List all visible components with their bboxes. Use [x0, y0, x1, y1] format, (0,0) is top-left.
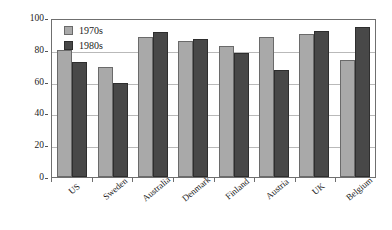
x-axis-label-cell: UK	[295, 183, 336, 230]
y-axis-tick-label: 100	[30, 14, 44, 23]
x-axis-tick-mark	[335, 178, 336, 182]
legend-label-1980s: 1980s	[79, 40, 103, 51]
y-axis-tick-label: 0	[39, 173, 44, 182]
bar	[178, 41, 193, 177]
bar	[193, 39, 208, 177]
x-axis-label-cell: US	[51, 183, 92, 230]
bar	[299, 34, 314, 177]
x-axis-label-us: US	[67, 181, 82, 196]
y-axis-tick-mark	[45, 146, 48, 147]
bar	[72, 62, 87, 177]
y-axis-tick-label: 40	[35, 109, 45, 118]
bar-group	[133, 20, 173, 177]
bar	[57, 50, 72, 177]
x-axis-label-cell: Belgium	[335, 183, 376, 230]
x-axis-label-uk: UK	[310, 181, 326, 197]
bar-group	[254, 20, 294, 177]
x-axis-tick-mark	[295, 178, 296, 182]
bar-chart: Percentage 020406080100 USSwedenAustrali…	[0, 0, 392, 230]
legend-label-1970s: 1970s	[79, 25, 103, 36]
bar-group	[294, 20, 334, 177]
x-axis-label-cell: Finland	[214, 183, 255, 230]
x-axis-tick-mark	[254, 178, 255, 182]
bar	[234, 53, 249, 177]
bar	[340, 60, 355, 177]
x-axis-label-cell: Denmark	[173, 183, 214, 230]
x-axis-tick-mark	[51, 178, 52, 182]
bar	[274, 70, 289, 177]
legend-item-1970s: 1970s	[64, 24, 103, 36]
x-axis-labels: USSwedenAustraliaDenmarkFinlandAustriaUK…	[51, 183, 376, 230]
y-axis-tick-mark	[45, 51, 48, 52]
bar-group	[335, 20, 375, 177]
bar	[259, 37, 274, 177]
bar	[98, 67, 113, 178]
bar	[153, 32, 168, 177]
x-axis-tick-mark	[214, 178, 215, 182]
x-axis-label-cell: Australia	[132, 183, 173, 230]
y-axis-tick-mark	[45, 19, 48, 20]
x-axis-tick-mark	[132, 178, 133, 182]
x-axis-tick-mark	[173, 178, 174, 182]
y-axis-tick-labels: 020406080100	[22, 0, 48, 230]
x-axis-tick-mark	[92, 178, 93, 182]
x-axis-label-cell: Sweden	[92, 183, 133, 230]
y-axis-tick-label: 20	[35, 141, 45, 150]
bar	[138, 37, 153, 177]
bar-group	[214, 20, 254, 177]
legend-swatch-1980s-icon	[64, 41, 73, 50]
legend-item-1980s: 1980s	[64, 39, 103, 51]
bar	[113, 83, 128, 177]
bar	[314, 31, 329, 177]
legend: 1970s 1980s	[64, 24, 103, 51]
bar	[219, 46, 234, 177]
y-axis-tick-label: 60	[35, 78, 45, 87]
y-axis-tick-mark	[45, 114, 48, 115]
y-axis-tick-label: 80	[35, 46, 45, 55]
y-axis-tick-mark	[45, 178, 48, 179]
bar-group	[173, 20, 213, 177]
x-axis-label-cell: Austria	[254, 183, 295, 230]
y-axis-tick-mark	[45, 83, 48, 84]
legend-swatch-1970s-icon	[64, 26, 73, 35]
bar	[355, 27, 370, 177]
